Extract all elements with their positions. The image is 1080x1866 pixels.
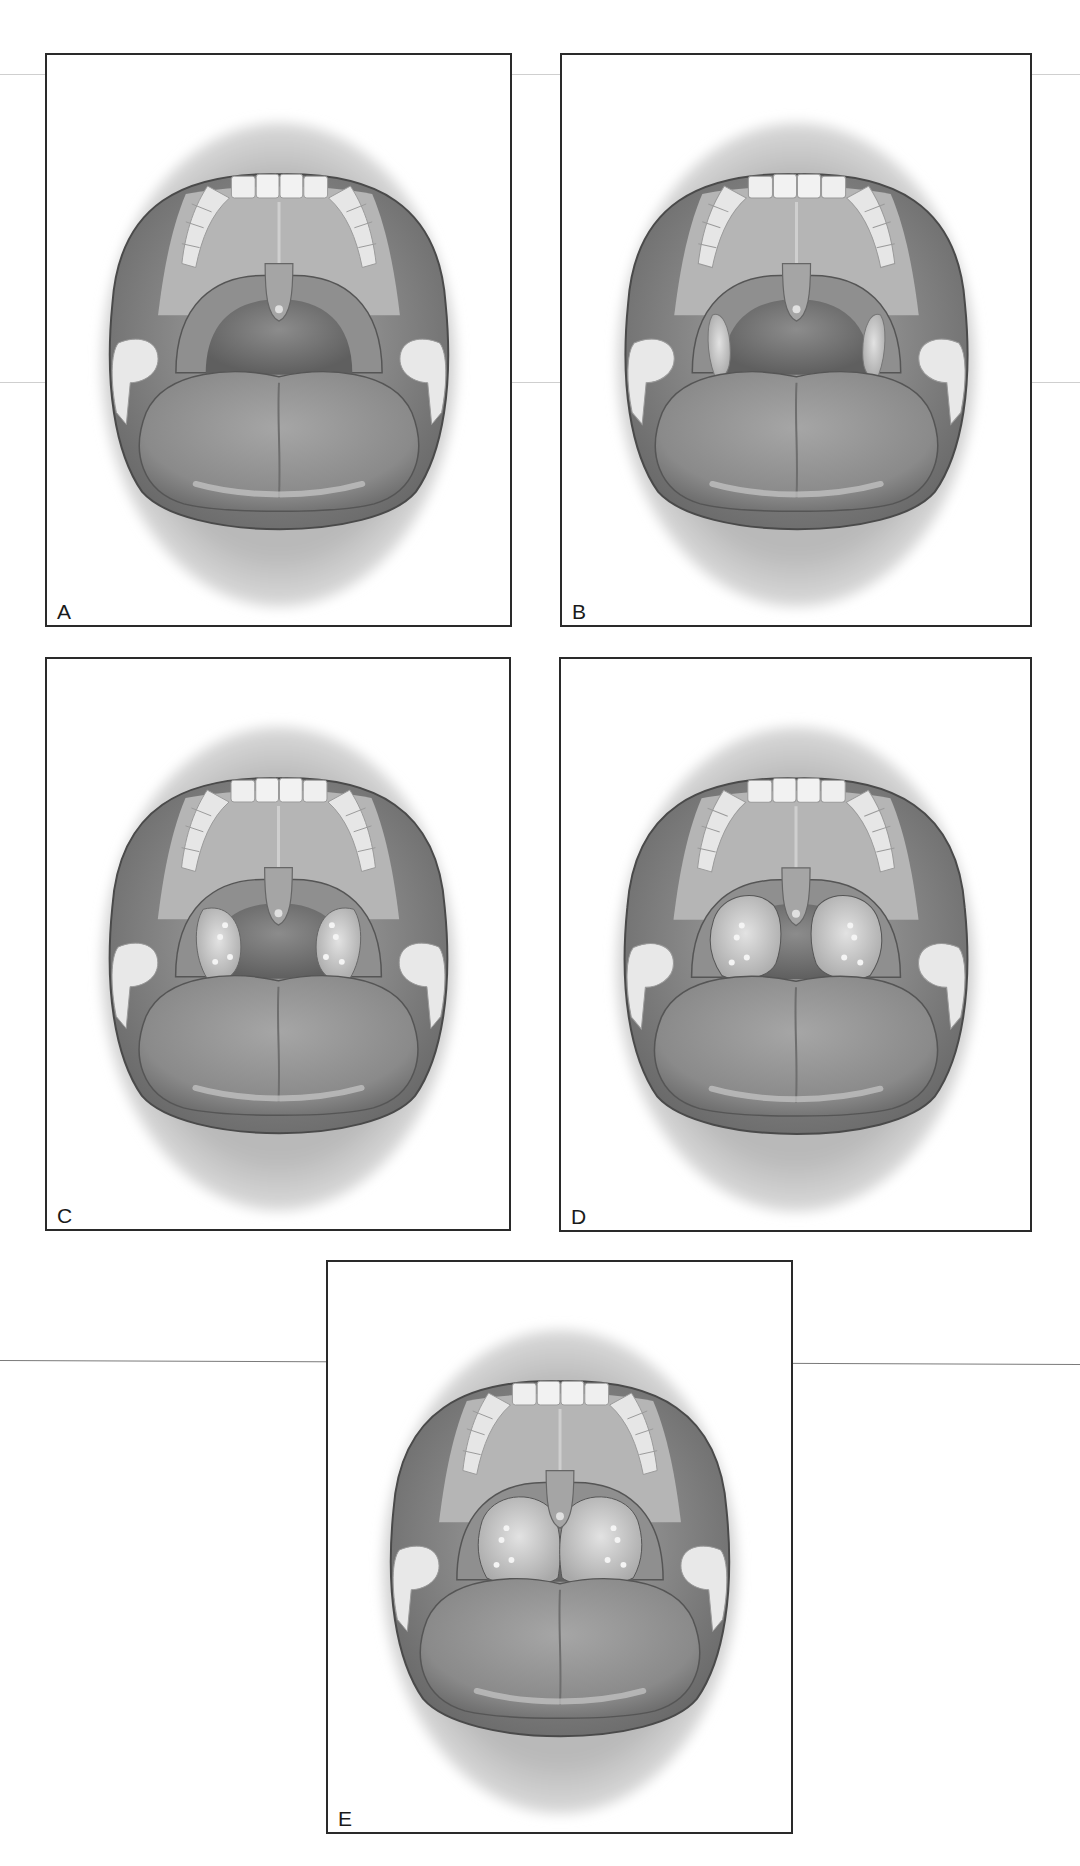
tonsil-crypt-highlight — [212, 959, 218, 965]
open-mouth-illustration — [47, 55, 510, 625]
panel-label: B — [572, 601, 586, 622]
upper-incisors — [512, 1381, 608, 1405]
panel-label: E — [338, 1808, 352, 1829]
tonsil-crypt-highlight — [734, 935, 740, 941]
tonsil-crypt-highlight — [222, 922, 228, 928]
figure-panel-b: B — [560, 53, 1032, 627]
upper-incisors — [748, 778, 845, 802]
figure-panel-e: E — [326, 1260, 793, 1834]
tonsil-crypt-highlight — [605, 1557, 611, 1563]
tonsil-crypt-highlight — [217, 934, 223, 940]
figure-panel-c: C — [45, 657, 511, 1231]
tonsil-crypt-highlight — [339, 959, 345, 965]
panel-label: A — [57, 601, 71, 622]
tonsil-crypt-highlight — [329, 922, 335, 928]
open-mouth-illustration — [562, 55, 1030, 625]
tonsil-crypt-highlight — [508, 1557, 514, 1563]
tonsil-crypt-highlight — [333, 934, 339, 940]
open-mouth-illustration — [561, 659, 1030, 1230]
tonsil-crypt-highlight — [841, 954, 847, 960]
tonsil-crypt-highlight — [503, 1525, 509, 1531]
tongue-midline — [796, 383, 797, 498]
open-mouth-illustration — [328, 1262, 791, 1832]
tongue-midline — [795, 987, 796, 1102]
tonsil-crypt-highlight — [851, 935, 857, 941]
tonsil-crypt-highlight — [847, 923, 853, 929]
upper-incisors — [231, 174, 327, 198]
open-mouth-illustration — [47, 659, 509, 1229]
tongue-midline — [278, 987, 279, 1102]
upper-incisors — [748, 174, 845, 198]
tonsil-crypt-highlight — [615, 1537, 621, 1543]
figure-panel-a: A — [45, 53, 512, 627]
tonsil-crypt-highlight — [494, 1562, 500, 1568]
upper-incisors — [231, 778, 327, 802]
tonsil-crypt-highlight — [611, 1525, 617, 1531]
tonsil-crypt-highlight — [857, 959, 863, 965]
tonsil-crypt-highlight — [499, 1537, 505, 1543]
tonsil-crypt-highlight — [729, 959, 735, 965]
tongue-midline — [278, 383, 279, 498]
tongue-midline — [559, 1590, 560, 1705]
panel-label: C — [57, 1205, 72, 1226]
tonsil-crypt-highlight — [323, 954, 329, 960]
tonsil-crypt-highlight — [744, 954, 750, 960]
panel-label: D — [571, 1206, 586, 1227]
tonsil-crypt-highlight — [620, 1562, 626, 1568]
tonsil-crypt-highlight — [739, 923, 745, 929]
tonsil-crypt-highlight — [227, 954, 233, 960]
figure-panel-d: D — [559, 657, 1032, 1232]
